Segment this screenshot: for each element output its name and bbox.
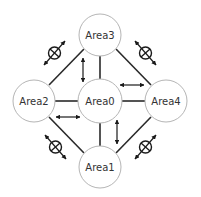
prohibited-icon	[45, 135, 66, 159]
node-label: Area0	[85, 96, 114, 107]
node-area4: Area4	[145, 80, 187, 122]
node-label: Area4	[151, 96, 180, 107]
link-area3-area2	[49, 49, 84, 85]
node-label: Area3	[85, 30, 114, 41]
node-area0: Area0	[78, 79, 122, 123]
area-topology-diagram: Area3 Area2 Area0 Area4 Area1	[0, 0, 201, 197]
node-area1: Area1	[79, 146, 121, 188]
node-area2: Area2	[13, 80, 55, 122]
prohibited-icon	[135, 135, 156, 159]
node-area3: Area3	[79, 14, 121, 56]
prohibited-icon	[44, 41, 65, 65]
link-area3-area4	[116, 49, 151, 85]
prohibited-icon	[135, 41, 156, 65]
node-label: Area1	[85, 162, 114, 173]
node-label: Area2	[19, 96, 48, 107]
nodes: Area3 Area2 Area0 Area4 Area1	[13, 14, 187, 188]
